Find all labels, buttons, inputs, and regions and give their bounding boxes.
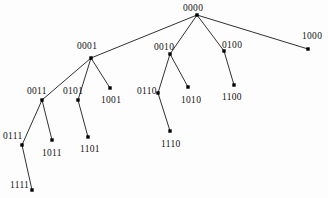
node-label-0101: 0101: [63, 86, 83, 96]
tree-edge: [197, 15, 308, 49]
tree-edge: [197, 15, 224, 51]
node-label-1100: 1100: [222, 92, 242, 102]
tree-node-1010[interactable]: [186, 85, 189, 88]
node-label-0011: 0011: [27, 86, 47, 96]
tree-node-1100[interactable]: [232, 83, 235, 86]
node-label-0100: 0100: [222, 40, 242, 50]
node-label-0000: 0000: [183, 3, 203, 13]
tree-node-1000[interactable]: [306, 47, 309, 50]
node-layer: [20, 13, 309, 191]
tree-diagram: 0000000100100100100000110101100101101010…: [0, 0, 328, 198]
tree-node-1110[interactable]: [168, 129, 171, 132]
tree-edge: [91, 15, 197, 58]
tree-node-1001[interactable]: [108, 86, 111, 89]
node-label-0010: 0010: [154, 42, 174, 52]
tree-node-1111[interactable]: [30, 188, 33, 191]
node-label-1011: 1011: [42, 148, 62, 158]
tree-edge: [158, 93, 170, 131]
tree-node-1101[interactable]: [86, 135, 89, 138]
tree-edge: [158, 54, 170, 93]
tree-node-0000[interactable]: [195, 13, 198, 16]
node-label-0111: 0111: [3, 131, 23, 141]
tree-edge: [42, 100, 52, 140]
tree-node-0111[interactable]: [20, 143, 23, 146]
node-label-1101: 1101: [80, 144, 100, 154]
node-label-1110: 1110: [161, 139, 181, 149]
tree-node-0011[interactable]: [40, 98, 43, 101]
node-label-1001: 1001: [101, 95, 121, 105]
tree-edge: [224, 51, 234, 85]
node-label-1111: 1111: [10, 180, 29, 190]
tree-graph-svg: [0, 0, 328, 198]
node-label-0001: 0001: [77, 41, 97, 51]
tree-node-0010[interactable]: [168, 52, 171, 55]
tree-node-1011[interactable]: [50, 138, 53, 141]
node-label-0110: 0110: [137, 86, 157, 96]
tree-edge: [78, 100, 88, 137]
tree-node-0101[interactable]: [76, 98, 79, 101]
tree-edge: [22, 100, 42, 145]
tree-edge: [91, 58, 110, 88]
tree-edge: [170, 54, 188, 87]
node-label-1000: 1000: [302, 31, 322, 41]
node-label-1010: 1010: [181, 95, 201, 105]
tree-node-0001[interactable]: [89, 56, 92, 59]
